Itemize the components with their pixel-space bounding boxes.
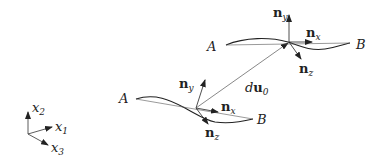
global-axes: x2 x1 x3 — [28, 100, 68, 157]
x3-axis-arrow — [28, 134, 48, 145]
lower-nz-label: nz — [205, 125, 219, 142]
lower-nx-label: nx — [221, 99, 236, 116]
lower-ny-arrow — [196, 80, 205, 108]
x2-label: x2 — [32, 100, 45, 117]
upper-point-a-label: A — [206, 39, 216, 54]
diagram-canvas: x2 x1 x3 A B ny nx nz du0 A B ny nx nz — [0, 0, 383, 160]
upper-nz-label: nz — [299, 61, 313, 78]
du0-label: du0 — [245, 80, 269, 97]
upper-ny-label: ny — [273, 5, 288, 22]
lower-point-b-label: B — [256, 112, 267, 127]
x3-label: x3 — [51, 140, 64, 157]
lower-ny-label: ny — [179, 76, 194, 93]
lower-point-a-label: A — [118, 91, 128, 106]
upper-point-b-label: B — [355, 37, 366, 52]
upper-frame: A B ny nx nz — [206, 5, 366, 78]
x1-axis-arrow — [28, 127, 52, 134]
x1-label: x1 — [55, 119, 68, 136]
upper-nx-label: nx — [306, 25, 321, 42]
